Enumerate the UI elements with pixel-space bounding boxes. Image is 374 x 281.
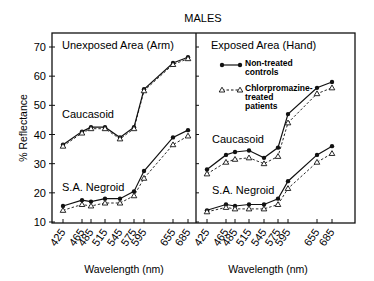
panel-title-exposed: Exposed Area (Hand) <box>211 39 316 51</box>
panel-title-unexposed: Unexposed Area (Arm) <box>62 39 174 51</box>
controls-marker-icon <box>286 179 290 183</box>
y-tick-label: 20 <box>34 187 46 199</box>
x-tick-label: 425 <box>47 226 67 248</box>
y-tick-label: 50 <box>34 99 46 111</box>
controls-marker-icon <box>315 86 319 90</box>
y-tick-label: 60 <box>34 70 46 82</box>
x-axis-label-right: Wavelength (nm) <box>228 263 308 275</box>
chart-title: MALES <box>184 12 221 24</box>
treated-marker-icon <box>285 186 291 191</box>
group-label-caucasoid-left: Caucasoid <box>62 108 114 120</box>
y-axis-label: % Reflectance <box>17 94 29 162</box>
y-tick-label: 70 <box>34 41 46 53</box>
controls-marker-icon <box>276 145 280 149</box>
treated-marker-icon <box>275 202 281 207</box>
controls-marker-icon <box>171 135 175 139</box>
x-tick-label: 685 <box>316 226 336 248</box>
treated-marker-icon <box>314 91 320 96</box>
legend: Non-treated controls Chlorpromazine- tre… <box>219 58 313 111</box>
legend-controls-marker-icon <box>220 63 224 67</box>
controls-line <box>63 130 188 206</box>
group-label-negroid-left: S.A. Negroid <box>62 181 124 193</box>
treated-marker-icon <box>170 142 176 147</box>
controls-marker-icon <box>276 196 280 200</box>
controls-marker-icon <box>330 144 334 148</box>
group-label-caucasoid-right: Caucasoid <box>212 133 264 145</box>
treated-marker-icon <box>79 202 85 207</box>
treated-marker-icon <box>185 133 191 138</box>
x-axis-label-left: Wavelength (nm) <box>84 263 164 275</box>
controls-marker-icon <box>315 153 319 157</box>
treated-marker-icon <box>204 171 210 176</box>
group-label-negroid-right: S.A. Negroid <box>212 184 274 196</box>
y-tick-label: 30 <box>34 158 46 170</box>
legend-controls-line2: controls <box>245 67 279 77</box>
plot-frame <box>52 33 355 223</box>
x-tick-label: 425 <box>191 226 211 248</box>
treated-marker-icon <box>275 154 281 159</box>
controls-marker-icon <box>224 153 228 157</box>
controls-marker-icon <box>262 156 266 160</box>
y-tick-label: 10 <box>34 216 46 228</box>
legend-controls-marker-icon <box>238 63 242 67</box>
legend-treated-marker-icon <box>237 87 243 92</box>
controls-marker-icon <box>286 112 290 116</box>
controls-marker-icon <box>330 80 334 84</box>
treated-marker-icon <box>88 203 94 208</box>
treated-marker-icon <box>131 193 137 198</box>
legend-treated-line3: patients <box>245 101 278 111</box>
reflectance-chart: MALES Unexposed Area (Arm) Exposed Area … <box>0 0 374 281</box>
treated-marker-icon <box>246 155 252 160</box>
treated-marker-icon <box>329 85 335 90</box>
x-tick-label: 685 <box>172 226 192 248</box>
treated-marker-icon <box>314 159 320 164</box>
y-tick-label: 40 <box>34 129 46 141</box>
treated-marker-icon <box>329 151 335 156</box>
controls-marker-icon <box>186 128 190 132</box>
controls-marker-icon <box>247 148 251 152</box>
controls-marker-icon <box>233 150 237 154</box>
controls-marker-icon <box>142 169 146 173</box>
